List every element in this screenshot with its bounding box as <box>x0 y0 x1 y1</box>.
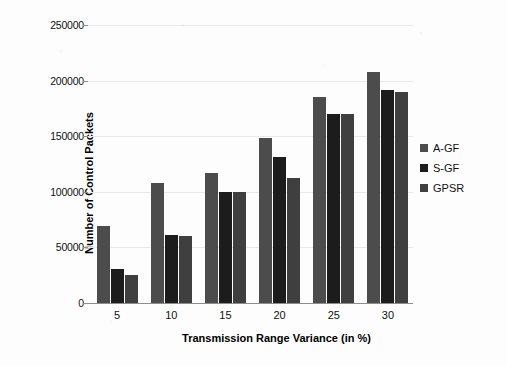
legend-label: A-GF <box>433 142 459 154</box>
bar <box>381 90 394 304</box>
y-tick-mark <box>83 25 88 26</box>
bar <box>97 226 110 303</box>
y-tick-mark <box>83 303 88 304</box>
y-tick-label: 200000 <box>0 75 84 87</box>
legend-label: S-GF <box>433 162 459 174</box>
bar-group <box>313 25 354 303</box>
bar <box>165 235 178 303</box>
bar <box>219 192 232 303</box>
bar <box>259 138 272 303</box>
bar <box>151 183 164 303</box>
legend-swatch-icon <box>420 144 428 152</box>
bar <box>179 236 192 303</box>
legend-swatch-icon <box>420 164 428 172</box>
y-tick-mark <box>83 81 88 82</box>
bar <box>341 114 354 303</box>
bar <box>313 97 326 303</box>
plot-area <box>88 25 413 303</box>
x-tick-label: 15 <box>203 309 247 321</box>
y-tick-label: 150000 <box>0 130 84 142</box>
chart-figure: Number of Control Packets Transmission R… <box>0 0 507 366</box>
bar <box>367 72 380 303</box>
x-tick-label: 30 <box>366 309 410 321</box>
bar-group <box>367 25 408 303</box>
bar-group <box>259 25 300 303</box>
bar-group <box>205 25 246 303</box>
bar-group <box>97 25 138 303</box>
x-tick-label: 5 <box>95 309 139 321</box>
y-tick-label: 250000 <box>0 19 84 31</box>
bar <box>233 192 246 303</box>
legend-label: GPSR <box>433 182 464 194</box>
x-tick-label: 10 <box>149 309 193 321</box>
y-tick-mark <box>83 247 88 248</box>
bar <box>395 92 408 303</box>
legend-swatch-icon <box>420 184 428 192</box>
x-tick-label: 25 <box>312 309 356 321</box>
axis-baseline <box>88 303 413 304</box>
legend: A-GFS-GFGPSR <box>420 139 464 199</box>
x-tick-label: 20 <box>258 309 302 321</box>
bar <box>111 269 124 303</box>
y-tick-label: 0 <box>0 297 84 309</box>
bar <box>125 275 138 303</box>
legend-item: A-GF <box>420 139 464 156</box>
x-axis-title: Transmission Range Variance (in %) <box>0 332 507 344</box>
legend-item: S-GF <box>420 159 464 176</box>
bar <box>205 173 218 303</box>
y-tick-label: 50000 <box>0 241 84 253</box>
bar <box>287 178 300 303</box>
y-tick-mark <box>83 192 88 193</box>
legend-item: GPSR <box>420 179 464 196</box>
y-tick-label: 100000 <box>0 186 84 198</box>
bar <box>327 114 340 303</box>
bar-group <box>151 25 192 303</box>
y-tick-mark <box>83 136 88 137</box>
bar <box>273 157 286 303</box>
